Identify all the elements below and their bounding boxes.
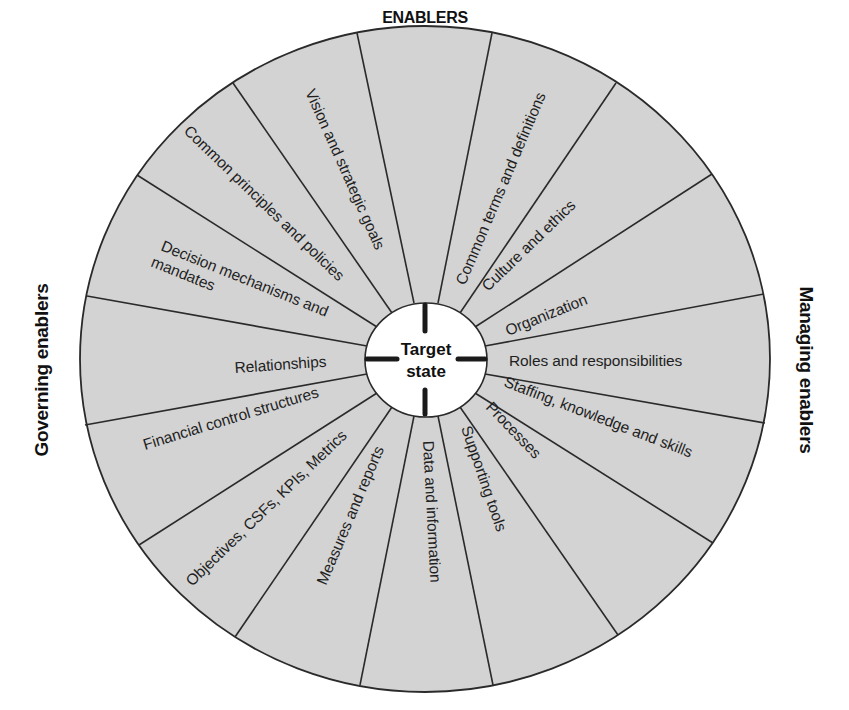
managing-enablers-label: Managing enablers xyxy=(796,287,817,454)
enablers-wheel-diagram: Target state ENABLERS Governing enablers… xyxy=(0,0,849,710)
center-label-line1: Target xyxy=(401,340,452,359)
governing-enablers-label: Governing enablers xyxy=(31,283,52,456)
center-label-line2: state xyxy=(406,362,446,381)
segment-label-roles-and-responsibilities: Roles and responsibilities xyxy=(509,352,683,369)
enablers-title: ENABLERS xyxy=(382,9,468,26)
